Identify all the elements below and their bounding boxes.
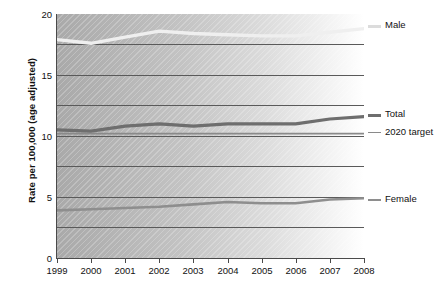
plot-svg [57, 14, 364, 258]
legend-label-2020-target: 2020 target [385, 126, 433, 137]
legend-swatch-male [368, 25, 381, 28]
y-tick-label-0: 0 [18, 254, 52, 264]
y-tick-label-5: 5 [18, 193, 52, 203]
plot-area [57, 14, 364, 258]
legend-label-total: Total [385, 108, 405, 119]
y-tick-label-20: 20 [18, 10, 52, 20]
x-tick-label-2003: 2003 [173, 266, 213, 276]
legend-swatch-2020-target [368, 132, 381, 133]
legend-swatch-female [368, 199, 381, 201]
chart-figure: Rate per 100,000 (age adjusted) 20 15 10… [0, 0, 446, 285]
x-tick-label-2008: 2008 [344, 266, 384, 276]
series-line-total [57, 117, 364, 132]
y-tick-label-15: 15 [18, 71, 52, 81]
series-line-male [57, 29, 364, 44]
series-line-female [57, 198, 364, 210]
y-tick-label-10: 10 [18, 132, 52, 142]
y-axis-line [56, 14, 57, 259]
legend-label-male: Male [385, 19, 406, 30]
x-axis-line [56, 258, 365, 259]
legend-swatch-total [368, 114, 381, 117]
y-axis-tick-labels: 20 15 10 5 0 [18, 0, 52, 285]
legend-label-female: Female [385, 193, 417, 204]
